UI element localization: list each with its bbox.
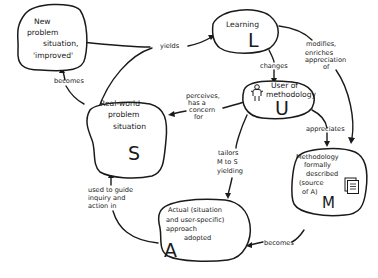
methodology-line-4: (source xyxy=(299,179,323,187)
user-line-2: methodology xyxy=(266,90,317,99)
edge-new-problem-yields xyxy=(82,42,150,47)
new-problem-line-1: New xyxy=(34,17,51,26)
edge-label-modifies-4: of xyxy=(323,63,330,71)
edge-label-becomes-top: becomes xyxy=(54,77,84,85)
edge-label-becomes-bottom: becomes xyxy=(264,239,294,247)
methodology-line-3: described xyxy=(306,170,338,178)
arrowhead xyxy=(348,137,355,144)
new-problem-line-4: 'improved' xyxy=(33,51,73,60)
arrowhead xyxy=(168,111,175,117)
edge-label-tailors-1: tailors xyxy=(218,149,239,157)
edge-label-used-3: action in xyxy=(88,202,116,210)
edge-label-modifies-1: modifies, xyxy=(306,40,336,48)
soft-systems-diagram: New problem situation, 'improved' Learni… xyxy=(0,0,378,278)
edge-label-appreciates: appreciates xyxy=(306,125,345,133)
real-world-line-2: problem xyxy=(108,110,139,119)
arrowhead xyxy=(225,193,231,199)
arrowhead xyxy=(324,141,330,147)
edge-s-becomes-new xyxy=(66,86,84,104)
methodology-line-5: of A) xyxy=(302,188,318,196)
document-icon xyxy=(345,178,359,194)
actual-line-3: approach xyxy=(166,225,197,233)
new-problem-line-2: problem xyxy=(27,28,58,37)
actual-line-2: and user-specific) xyxy=(166,216,224,224)
edge-label-tailors-3: yielding xyxy=(217,167,243,175)
new-problem-line-3: situation, xyxy=(43,39,78,48)
learning-title: Learning xyxy=(226,20,259,29)
edge-label-tailors-2: M to S xyxy=(217,158,238,166)
edge-label-changes: changes xyxy=(260,62,288,70)
real-world-line-1: Real-world xyxy=(100,99,140,108)
real-world-line-3: situation xyxy=(113,122,146,131)
real-world-letter: S xyxy=(128,142,140,164)
node-learning xyxy=(213,10,279,53)
edge-label-used-1: used to guide xyxy=(88,186,133,194)
edge-yields-to-learning xyxy=(188,36,213,46)
user-letter: U xyxy=(275,97,289,119)
edge-a-used-to-guide xyxy=(113,211,158,243)
methodology-line-2: formally xyxy=(304,161,331,169)
actual-letter: A xyxy=(164,239,177,261)
node-new-problem xyxy=(18,4,87,70)
user-line-1: User of xyxy=(271,81,298,90)
actual-line-4: adopted xyxy=(184,234,211,242)
methodology-letter: M xyxy=(322,194,335,212)
edge-label-perceives-4: for xyxy=(194,113,203,121)
methodology-line-1: Methodology xyxy=(296,153,339,161)
actual-line-1: Actual (situation xyxy=(168,206,222,214)
edge-learning-changes xyxy=(269,50,274,62)
edge-user-tailors xyxy=(236,115,247,148)
edge-label-yields: yields xyxy=(160,42,180,50)
learning-letter: L xyxy=(248,29,259,51)
edge-user-perceives xyxy=(223,102,244,108)
edge-label-used-2: inquiry and xyxy=(88,194,125,202)
edge-learning-modifies xyxy=(279,26,312,40)
